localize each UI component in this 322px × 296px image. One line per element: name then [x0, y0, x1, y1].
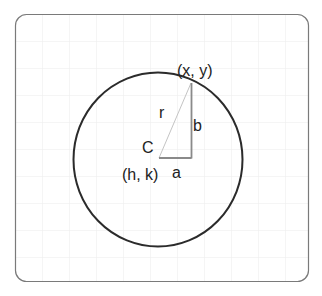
- grid-background: [15, 14, 309, 282]
- circle-equation-diagram: (x, y) r b C (h, k) a: [0, 0, 322, 296]
- radius-label: r: [159, 104, 165, 121]
- center-name-label: C: [142, 139, 154, 156]
- center-coords-label: (h, k): [122, 166, 158, 183]
- vertical-leg-label: b: [193, 117, 202, 134]
- point-label: (x, y): [177, 62, 213, 79]
- horizontal-leg-label: a: [172, 164, 181, 181]
